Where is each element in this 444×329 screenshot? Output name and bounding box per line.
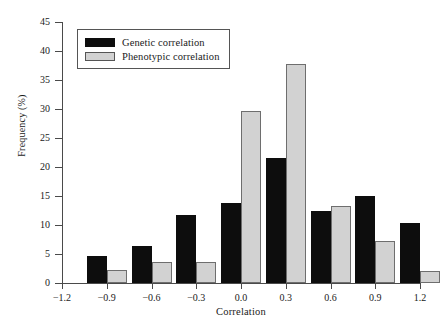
x-tick bbox=[375, 283, 376, 289]
chart-legend: Genetic correlation Phenotypic correlati… bbox=[77, 29, 230, 69]
x-tick bbox=[107, 283, 108, 289]
legend-label-phenotypic: Phenotypic correlation bbox=[122, 51, 220, 62]
y-tick bbox=[55, 167, 62, 168]
bar-phenotypic-0.0 bbox=[241, 111, 261, 283]
bar-genetic-0.9 bbox=[355, 196, 375, 283]
bar-genetic--0.9 bbox=[87, 256, 107, 283]
y-tick bbox=[55, 109, 62, 110]
bar-phenotypic-0.3 bbox=[286, 64, 306, 283]
legend-label-genetic: Genetic correlation bbox=[122, 37, 205, 48]
bar-phenotypic--0.6 bbox=[152, 262, 172, 283]
y-tick bbox=[55, 254, 62, 255]
y-tick-label: 0 bbox=[0, 277, 50, 288]
y-tick bbox=[55, 22, 62, 23]
y-tick-label: 5 bbox=[0, 248, 50, 259]
legend-item-genetic: Genetic correlation bbox=[85, 35, 220, 49]
x-tick bbox=[241, 283, 242, 289]
legend-item-phenotypic: Phenotypic correlation bbox=[85, 49, 220, 63]
y-tick-label: 15 bbox=[0, 190, 50, 201]
y-tick bbox=[55, 51, 62, 52]
x-tick bbox=[331, 283, 332, 289]
x-tick-label: 1.2 bbox=[390, 292, 444, 303]
legend-swatch-genetic bbox=[85, 38, 115, 47]
bar-genetic-0.0 bbox=[221, 203, 241, 283]
bar-genetic--0.3 bbox=[176, 215, 196, 283]
x-tick bbox=[152, 283, 153, 289]
x-tick bbox=[286, 283, 287, 289]
y-tick bbox=[55, 80, 62, 81]
bar-phenotypic-1.2 bbox=[420, 271, 440, 283]
bar-genetic-0.6 bbox=[311, 211, 331, 283]
x-tick bbox=[420, 283, 421, 289]
bar-genetic--0.6 bbox=[132, 246, 152, 283]
y-tick bbox=[55, 196, 62, 197]
y-tick-label: 45 bbox=[0, 16, 50, 27]
y-tick-label: 10 bbox=[0, 219, 50, 230]
y-tick-label: 25 bbox=[0, 132, 50, 143]
x-tick bbox=[62, 283, 63, 289]
x-axis-label: Correlation bbox=[62, 306, 420, 317]
bar-phenotypic--0.9 bbox=[107, 270, 127, 283]
bar-phenotypic-0.9 bbox=[375, 241, 395, 283]
y-tick-label: 40 bbox=[0, 45, 50, 56]
bar-phenotypic--0.3 bbox=[196, 262, 216, 283]
bar-phenotypic-0.6 bbox=[331, 206, 351, 283]
y-tick bbox=[55, 283, 62, 284]
y-tick-label: 20 bbox=[0, 161, 50, 172]
y-tick-label: 30 bbox=[0, 103, 50, 114]
bar-genetic-0.3 bbox=[266, 158, 286, 283]
y-tick bbox=[55, 138, 62, 139]
bar-genetic-1.2 bbox=[400, 223, 420, 283]
y-tick bbox=[55, 225, 62, 226]
legend-swatch-phenotypic bbox=[85, 52, 115, 61]
y-tick-label: 35 bbox=[0, 74, 50, 85]
x-tick bbox=[196, 283, 197, 289]
